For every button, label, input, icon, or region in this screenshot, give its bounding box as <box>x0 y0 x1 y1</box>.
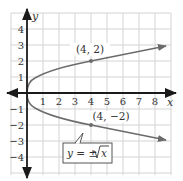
x-tick: 5 <box>104 96 110 107</box>
x-tick: 1 <box>40 96 46 107</box>
x-axis-label: x <box>167 96 174 109</box>
x-tick: 2 <box>56 96 62 107</box>
equation-radicand: x <box>101 147 107 159</box>
equation-callout: y = ± x <box>63 133 112 163</box>
x-tick: 7 <box>136 96 142 107</box>
sqrt-graph-chart: x y 1 2 3 4 5 6 7 8 4 3 2 1 −1 −2 −3 −4 <box>0 0 183 181</box>
x-tick-labels: 1 2 3 4 5 6 7 8 <box>40 96 158 107</box>
y-tick: 3 <box>18 40 24 51</box>
y-axis-label: y <box>31 10 39 23</box>
y-tick: −2 <box>9 120 24 131</box>
point-lower <box>89 123 93 127</box>
point-upper <box>89 59 93 63</box>
y-tick: 1 <box>18 72 24 83</box>
x-tick: 3 <box>72 96 78 107</box>
y-tick: 4 <box>18 24 24 35</box>
x-tick: 6 <box>120 96 126 107</box>
y-tick: −1 <box>9 104 24 115</box>
point-upper-label: (4, 2) <box>76 43 104 55</box>
x-tick: 8 <box>152 96 158 107</box>
y-tick: 2 <box>18 56 24 67</box>
y-tick: −4 <box>9 152 24 163</box>
point-lower-label: (4, −2) <box>92 110 129 122</box>
y-tick: −3 <box>9 136 24 147</box>
equation-prefix: y = ± <box>66 147 97 159</box>
x-tick: 4 <box>88 96 94 107</box>
